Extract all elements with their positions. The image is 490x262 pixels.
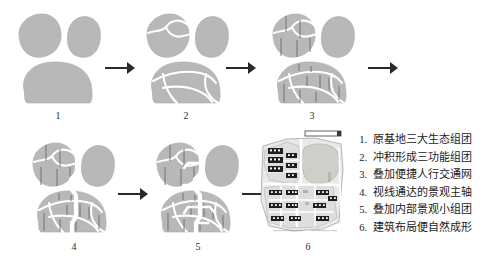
panel-6-site-plan <box>253 130 353 240</box>
building <box>286 173 297 178</box>
panel-1-svg <box>12 8 104 108</box>
panel-2-diagram <box>140 8 232 108</box>
panel-6-svg <box>253 130 353 240</box>
arrow-head <box>390 62 398 74</box>
building <box>286 203 298 208</box>
building <box>268 166 283 172</box>
site-green-area <box>302 144 340 184</box>
arrow-head <box>127 62 135 74</box>
arrow-3-to-4 <box>368 62 399 74</box>
cluster-bottom <box>152 62 221 103</box>
panel-4-svg <box>26 137 122 237</box>
arrow-head <box>248 62 256 74</box>
building <box>269 190 282 195</box>
legend-item-number: 1. <box>352 134 367 145</box>
cluster-top-left <box>147 14 190 57</box>
cluster-top-right <box>321 17 354 58</box>
panel-3-caption: 3 <box>300 110 324 121</box>
panel-5-diagram <box>150 137 246 237</box>
cluster-bottom <box>24 62 93 103</box>
legend-item-number: 3. <box>352 169 367 180</box>
arrow-shaft <box>368 67 391 69</box>
building <box>289 216 301 221</box>
legend-item-number: 4. <box>352 187 367 198</box>
building <box>328 196 337 201</box>
legend-item-number: 6. <box>352 222 367 233</box>
building <box>271 216 284 221</box>
arrow-shaft <box>105 67 128 69</box>
building <box>286 163 297 168</box>
legend-item-label: 原基地三大生态组团 <box>373 130 472 146</box>
building <box>286 190 298 195</box>
arrow-head <box>140 188 148 200</box>
panel-1-diagram <box>12 8 104 108</box>
building <box>316 216 329 221</box>
legend-item-5: 5. 叠加内部景观小组团 <box>352 200 490 218</box>
building <box>313 203 326 208</box>
legend-item-6: 6. 建筑布局便自然成形 <box>352 218 490 236</box>
cluster-bottom <box>278 62 347 103</box>
arrow-2-to-3 <box>226 62 257 74</box>
panel-5-svg <box>150 137 246 237</box>
panel-2-caption: 2 <box>174 110 198 121</box>
cluster-top-right <box>81 146 114 187</box>
panel-1-caption: 1 <box>46 110 70 121</box>
legend-item-label: 叠加便捷人行交通网 <box>373 165 472 181</box>
figure-canvas: 1 2 <box>0 0 490 262</box>
panel-3-diagram <box>266 8 358 108</box>
legend-item-number: 2. <box>352 152 367 163</box>
building <box>268 157 283 163</box>
cluster-top-left <box>273 14 316 57</box>
arrow-shaft <box>118 193 141 195</box>
legend-item-2: 2. 冲积形成三功能组团 <box>352 148 490 166</box>
legend-list: 1. 原基地三大生态组团 2. 冲积形成三功能组团 3. 叠加便捷人行交通网 4… <box>352 130 490 236</box>
building <box>316 190 329 195</box>
building <box>286 153 297 158</box>
cluster-top-left <box>19 14 61 57</box>
cluster-top-right <box>195 17 228 58</box>
cluster-top-right <box>205 146 238 187</box>
arrow-1-to-2 <box>105 62 136 74</box>
legend-item-label: 视线通达的景观主轴 <box>373 183 472 199</box>
building <box>269 203 282 208</box>
legend-item-number: 5. <box>352 204 367 215</box>
legend-item-label: 冲积形成三功能组团 <box>373 148 472 164</box>
panel-2-svg <box>140 8 232 108</box>
building <box>268 148 283 154</box>
panel-5-caption: 5 <box>186 241 210 252</box>
arrow-4-to-5 <box>118 188 149 200</box>
panel-6-caption: 6 <box>296 241 320 252</box>
legend-item-3: 3. 叠加便捷人行交通网 <box>352 165 490 183</box>
legend-item-4: 4. 视线通达的景观主轴 <box>352 183 490 201</box>
legend-item-1: 1. 原基地三大生态组团 <box>352 130 490 148</box>
cluster-top-right <box>67 17 100 58</box>
panel-4-caption: 4 <box>62 241 86 252</box>
panel-3-svg <box>266 8 358 108</box>
legend-item-label: 建筑布局便自然成形 <box>373 218 472 234</box>
legend-item-label: 叠加内部景观小组团 <box>373 200 472 216</box>
panel-4-diagram <box>26 137 122 237</box>
arrow-shaft <box>226 67 249 69</box>
scale-bar <box>305 131 341 136</box>
